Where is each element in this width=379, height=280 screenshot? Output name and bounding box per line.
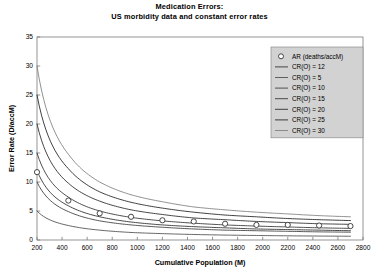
legend-entry-label: CR(O) = 5 [292,74,322,82]
chart-figure: Medication Errors: US morbidity data and… [0,0,379,280]
data-point-marker [66,198,71,203]
y-tick-label: 10 [26,178,34,185]
x-axis-title: Cumulative Population (M) [155,258,246,267]
data-point-marker [160,218,165,223]
x-tick-label: 2800 [356,244,371,251]
y-tick-label: 25 [26,91,34,98]
x-axis-ticks: 2004006008001000120014001600180020002200… [31,237,370,251]
data-point-marker [285,222,290,227]
x-tick-label: 1800 [230,244,245,251]
x-tick-label: 2200 [280,244,295,251]
x-tick-label: 1200 [155,244,170,251]
legend-entry-label: AR (deaths/accM) [292,53,343,61]
x-tick-label: 600 [82,244,93,251]
x-tick-label: 1400 [180,244,195,251]
y-tick-label: 35 [26,33,34,40]
x-tick-label: 2600 [331,244,346,251]
data-point-marker [34,170,39,175]
legend-marker-icon [279,54,284,59]
x-tick-label: 2000 [255,244,270,251]
legend-entry-label: CR(O) = 30 [292,127,325,135]
legend-entry-label: CR(O) = 15 [292,95,325,103]
scatter-markers [34,170,353,229]
series-line-4 [37,124,350,224]
chart-canvas: 2004006008001000120014001600180020002200… [0,0,379,280]
x-tick-label: 800 [107,244,118,251]
data-point-marker [222,221,227,226]
y-tick-label: 20 [26,120,34,127]
y-axis-title: Error Rate (D/accM) [7,104,16,172]
legend-entry-label: CR(O) = 12 [292,63,325,71]
x-tick-label: 1000 [130,244,145,251]
x-tick-label: 200 [31,244,42,251]
data-point-marker [128,214,133,219]
legend-entry-label: CR(O) = 10 [292,84,325,92]
x-tick-label: 400 [57,244,68,251]
y-tick-label: 0 [29,236,33,243]
data-point-marker [348,223,353,228]
legend-entry-label: CR(O) = 25 [292,116,325,124]
data-point-marker [191,219,196,224]
x-tick-label: 2400 [306,244,321,251]
data-point-marker [254,222,259,227]
legend-entry-label: CR(O) = 20 [292,106,325,114]
data-point-marker [317,223,322,228]
y-tick-label: 30 [26,62,34,69]
x-tick-label: 1600 [205,244,220,251]
y-tick-label: 15 [26,149,34,156]
data-point-marker [97,211,102,216]
y-tick-label: 5 [29,207,33,214]
legend-box: AR (deaths/accM)CR(O) = 12CR(O) = 5CR(O)… [271,47,363,138]
